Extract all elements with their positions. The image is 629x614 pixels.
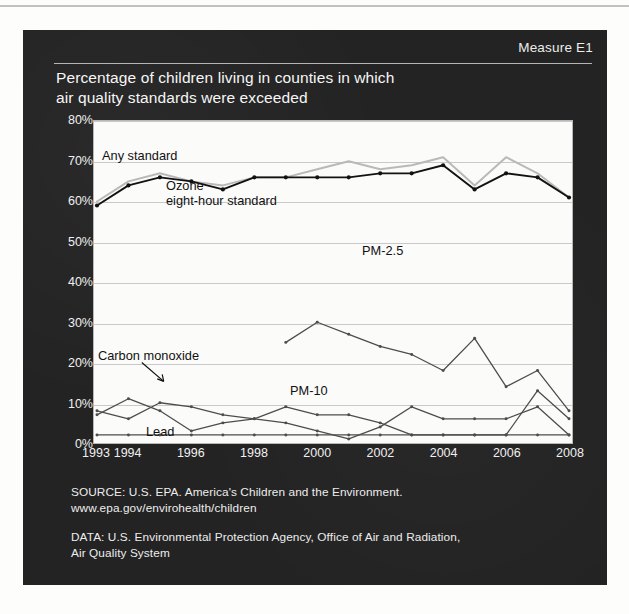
data-point [284,175,288,179]
data-point [379,433,382,436]
data-point [190,405,193,408]
data-point [221,421,224,424]
x-axis-tick-label: 2008 [556,446,584,460]
data-point [127,397,130,400]
data-point [95,433,98,436]
data-point [127,433,130,436]
y-axis-tick-label: 40% [47,275,93,289]
data-point [284,405,287,408]
x-axis-tick-label: 2002 [366,446,394,460]
x-axis-tick-label: 1996 [177,446,205,460]
source-note: SOURCE: U.S. EPA. America's Children and… [71,485,403,516]
figure-panel: Measure E1 Percentage of children living… [23,30,607,585]
data-point [567,195,571,199]
data-point [410,353,413,356]
data-point [95,203,99,207]
data-point [505,433,508,436]
data-point [379,421,382,424]
annotation-carbon-monoxide: Carbon monoxide [98,348,199,363]
data-point [410,405,413,408]
data-point [473,417,476,420]
data-point [536,369,539,372]
data-point [442,433,445,436]
data-point [126,183,130,187]
data-point [315,175,319,179]
measure-tag: Measure E1 [518,40,593,55]
x-axis-tick-label: 2006 [493,446,521,460]
x-axis-tick-label: 1993 [82,446,110,460]
data-point [379,425,382,428]
data-point [221,433,224,436]
data-point [158,175,162,179]
annotation-ozone: Ozone eight-hour standard [166,178,277,208]
data-point [536,405,539,408]
data-note: DATA: U.S. Environmental Protection Agen… [71,530,460,561]
data-point [316,413,319,416]
data-point [158,401,161,404]
data-point [316,429,319,432]
chart-plot-area: Any standard Ozone eight-hour standard P… [93,120,573,444]
data-point [505,385,508,388]
scanned-page: Measure E1 Percentage of children living… [0,0,629,614]
data-point [253,433,256,436]
header-divider [54,63,592,64]
data-point [284,341,287,344]
data-point [347,433,350,436]
data-point [410,433,413,436]
data-point [473,187,477,191]
data-point [568,417,571,420]
data-point [473,433,476,436]
data-point [504,171,508,175]
y-axis-tick-label: 20% [47,356,93,370]
data-point [253,417,256,420]
annotation-any-standard: Any standard [102,148,177,163]
data-point [190,429,193,432]
x-axis-tick-label: 1998 [240,446,268,460]
data-point [568,409,571,412]
data-point [536,433,539,436]
data-point [284,433,287,436]
y-axis-tick-label: 30% [47,316,93,330]
data-point [316,321,319,324]
data-point [284,421,287,424]
data-point [442,417,445,420]
y-axis-tick-label: 50% [47,235,93,249]
data-point [347,175,351,179]
annotation-pm10: PM-10 [290,383,328,398]
series-pm-2-5 [284,321,570,413]
data-point [441,163,445,167]
data-point [347,333,350,336]
data-point [127,417,130,420]
annotation-pm25: PM-2.5 [362,243,403,258]
data-point [95,409,98,412]
data-point [505,417,508,420]
page-title: Percentage of children living in countie… [56,68,556,108]
x-axis-tick-label: 1994 [114,446,142,460]
data-point [158,409,161,412]
scan-artifact-line [0,5,629,7]
data-point [221,413,224,416]
data-point [568,433,571,436]
data-point [442,369,445,372]
x-axis-tick-labels: 199319941996199820002002200420062008 [93,446,573,466]
data-point [473,337,476,340]
annotation-lead: Lead [146,424,174,439]
data-point [190,433,193,436]
y-axis-tick-label: 10% [47,397,93,411]
chart-series-layer [94,121,572,443]
chart-plot-wrapper: 0%10%20%30%40%50%60%70%80% Any standard … [70,108,597,453]
x-axis-tick-label: 2000 [303,446,331,460]
y-axis-tick-label: 60% [47,194,93,208]
y-axis-tick-label: 80% [47,113,93,127]
y-axis-tick-label: 70% [47,154,93,168]
data-point [347,413,350,416]
x-axis-tick-label: 2004 [430,446,458,460]
data-point [347,437,350,440]
data-point [378,171,382,175]
data-point [95,413,98,416]
data-point [536,389,539,392]
data-point [379,345,382,348]
data-point [535,175,539,179]
data-point [316,433,319,436]
data-point [410,171,414,175]
